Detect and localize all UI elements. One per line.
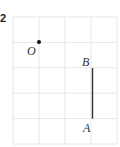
label-o: O — [27, 44, 36, 58]
label-a: A — [82, 121, 91, 135]
grid-lines — [13, 17, 117, 144]
grid-diagram: O B A — [0, 0, 120, 147]
label-b: B — [82, 55, 90, 69]
point-o-dot — [37, 40, 41, 44]
